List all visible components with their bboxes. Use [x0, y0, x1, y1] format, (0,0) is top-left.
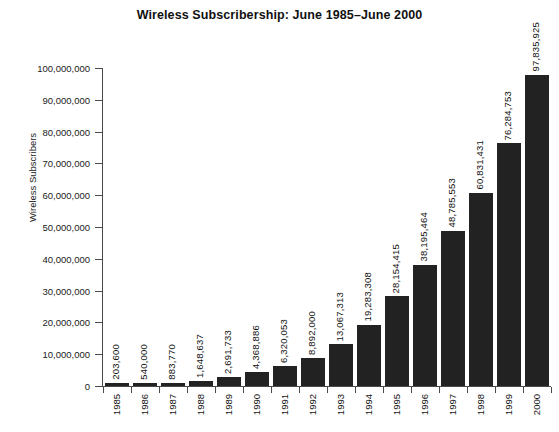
x-tick-label: 1985: [111, 394, 122, 415]
y-tick-mark: [95, 100, 102, 101]
x-tick-mark: [523, 387, 524, 393]
bar-value-label: 1,648,637: [194, 334, 205, 378]
bar: [301, 358, 325, 386]
y-tick-label: 0: [85, 381, 90, 392]
x-tick-label: 1999: [503, 394, 514, 415]
bar: [245, 372, 269, 386]
bar: [525, 75, 549, 386]
bar: [105, 383, 129, 386]
y-tick-mark: [95, 322, 102, 323]
y-tick-label: 10,000,000: [42, 349, 90, 360]
x-tick-label: 2000: [531, 394, 542, 415]
y-tick-label: 100,000,000: [37, 63, 90, 74]
bar-value-label: 13,067,313: [334, 292, 345, 342]
y-tick-label: 30,000,000: [42, 285, 90, 296]
y-tick-label: 40,000,000: [42, 253, 90, 264]
x-tick-mark: [271, 387, 272, 393]
bar-value-label: 6,320,053: [278, 319, 289, 363]
bar-value-label: 28,154,415: [390, 244, 401, 294]
plot-area: [103, 68, 551, 386]
x-tick-label: 1995: [391, 394, 402, 415]
y-tick-mark: [95, 259, 102, 260]
bar-value-label: 540,000: [138, 344, 149, 380]
y-tick-label: 60,000,000: [42, 190, 90, 201]
bar-value-label: 19,283,308: [362, 272, 373, 322]
y-tick-mark: [95, 132, 102, 133]
y-tick-mark: [95, 291, 102, 292]
x-tick-mark: [187, 387, 188, 393]
bar: [385, 296, 409, 386]
y-tick-mark: [95, 68, 102, 69]
y-tick-mark: [95, 386, 102, 387]
chart-title: Wireless Subscribership: June 1985–June …: [0, 8, 559, 22]
x-tick-label: 1998: [475, 394, 486, 415]
x-tick-label: 1994: [363, 394, 374, 415]
x-tick-mark: [299, 387, 300, 393]
y-tick-label: 50,000,000: [42, 222, 90, 233]
x-tick-mark: [159, 387, 160, 393]
bar-value-label: 883,770: [166, 344, 177, 380]
y-tick-mark: [95, 163, 102, 164]
x-tick-mark: [215, 387, 216, 393]
x-tick-mark: [467, 387, 468, 393]
wireless-subscribership-bar-chart: Wireless Subscribership: June 1985–June …: [0, 0, 559, 432]
x-tick-label: 1986: [139, 394, 150, 415]
bar: [217, 377, 241, 386]
x-tick-label: 1992: [307, 394, 318, 415]
bar: [357, 325, 381, 386]
x-tick-mark: [439, 387, 440, 393]
y-axis-title: Wireless Subscribers: [27, 98, 38, 258]
x-tick-label: 1990: [251, 394, 262, 415]
x-tick-mark: [103, 387, 104, 393]
bar: [161, 383, 185, 386]
bar: [469, 193, 493, 386]
y-tick-label: 80,000,000: [42, 126, 90, 137]
x-tick-label: 1997: [447, 394, 458, 415]
x-tick-mark: [327, 387, 328, 393]
y-tick-mark: [95, 195, 102, 196]
bar-value-label: 8,892,000: [306, 311, 317, 355]
x-tick-mark: [551, 387, 552, 393]
x-tick-label: 1988: [195, 394, 206, 415]
x-tick-mark: [495, 387, 496, 393]
x-tick-label: 1987: [167, 394, 178, 415]
x-tick-label: 1996: [419, 394, 430, 415]
bar-value-label: 38,195,464: [418, 212, 429, 262]
bar-value-label: 2,691,733: [222, 330, 233, 374]
bar-value-label: 48,785,553: [446, 178, 457, 228]
bar-value-label: 97,835,925: [530, 22, 541, 72]
bar-value-label: 203,600: [110, 344, 121, 380]
y-tick-label: 70,000,000: [42, 158, 90, 169]
y-tick-label: 90,000,000: [42, 94, 90, 105]
x-tick-mark: [243, 387, 244, 393]
x-tick-label: 1989: [223, 394, 234, 415]
bar: [413, 265, 437, 386]
bar: [329, 344, 353, 386]
bar-value-label: 60,831,431: [474, 140, 485, 190]
bar-value-label: 76,284,753: [502, 91, 513, 141]
x-tick-mark: [383, 387, 384, 393]
bar-value-label: 4,368,886: [250, 325, 261, 369]
bar: [273, 366, 297, 386]
y-tick-mark: [95, 354, 102, 355]
x-tick-mark: [411, 387, 412, 393]
x-tick-label: 1993: [335, 394, 346, 415]
x-tick-label: 1991: [279, 394, 290, 415]
y-tick-mark: [95, 227, 102, 228]
bar: [497, 143, 521, 386]
x-tick-mark: [131, 387, 132, 393]
bar: [441, 231, 465, 386]
x-tick-mark: [355, 387, 356, 393]
bar: [133, 383, 157, 386]
y-tick-label: 20,000,000: [42, 317, 90, 328]
bar: [189, 381, 213, 386]
